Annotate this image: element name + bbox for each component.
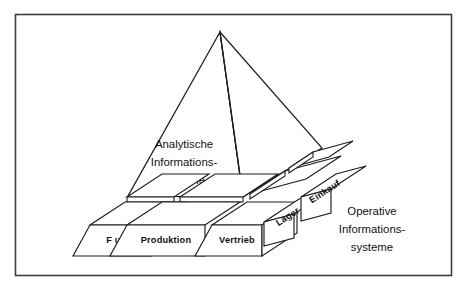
pyramid-diagram: Analytische Informations- systeme F xyxy=(0,0,468,287)
operative-caption-line-2: Informations- xyxy=(339,223,406,235)
block-vertrieb-label: Vertrieb xyxy=(219,235,255,245)
diagram-root: Analytische Informations- systeme F xyxy=(0,0,468,287)
analytical-caption-line-1: Analytische xyxy=(155,138,213,150)
upper-slab-mid-front xyxy=(180,197,243,202)
analytical-caption-line-2: Informations- xyxy=(151,156,218,168)
operative-caption-line-3: systeme xyxy=(351,241,393,253)
block-produktion-label: Produktion xyxy=(141,235,192,245)
upper-slab-left-front xyxy=(127,197,174,202)
operative-caption-line-1: Operative xyxy=(347,205,396,217)
